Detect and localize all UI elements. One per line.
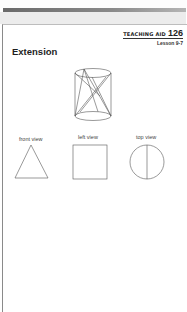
left-view-label: left view	[78, 134, 98, 140]
cylinder-with-inscribed-lines-icon	[75, 69, 111, 121]
front-view-triangle	[15, 145, 48, 178]
top-view-circle	[130, 145, 164, 179]
top-view-label: top view	[136, 134, 156, 140]
front-view-label: front view	[19, 136, 43, 142]
left-view-square	[73, 145, 107, 179]
